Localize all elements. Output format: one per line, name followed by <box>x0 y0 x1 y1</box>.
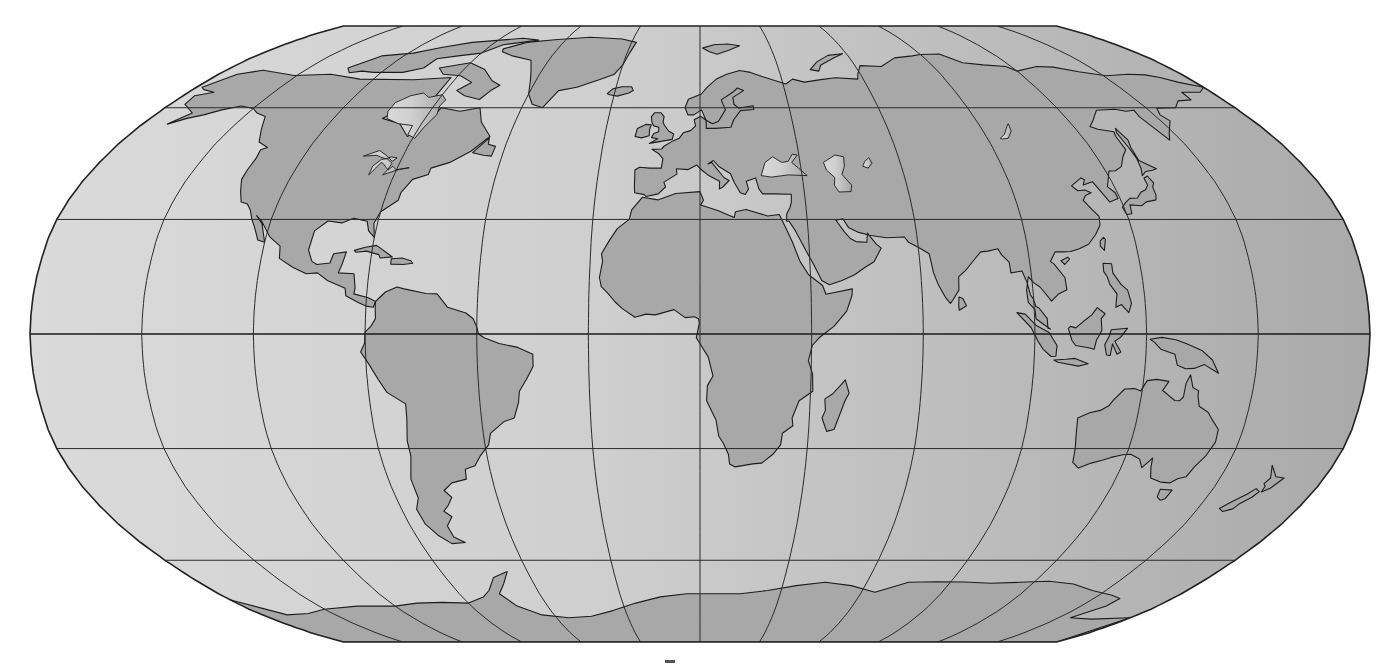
robinson-projection-map <box>0 0 1387 665</box>
page-mark <box>665 660 675 663</box>
world-map <box>0 0 1387 665</box>
